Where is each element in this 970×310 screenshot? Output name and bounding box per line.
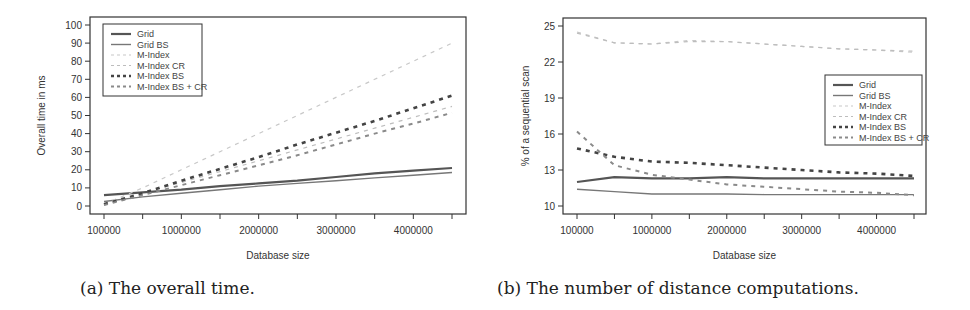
x-tick-label: 4000000 bbox=[394, 225, 433, 236]
series-line-grid bbox=[577, 177, 914, 182]
x-tick-label: 1000000 bbox=[162, 225, 201, 236]
y-tick-label: 10 bbox=[544, 201, 556, 212]
y-tick-label: 70 bbox=[71, 74, 83, 85]
x-tick-label: 3000000 bbox=[317, 225, 356, 236]
x-tick-label: 4000000 bbox=[857, 225, 896, 236]
series-line-m-index bbox=[577, 32, 914, 52]
y-tick-label: 0 bbox=[76, 201, 82, 212]
y-tick-label: 50 bbox=[71, 110, 83, 121]
legend-label: M-Index BS bbox=[137, 71, 184, 81]
caption-b: (b) The number of distance computations. bbox=[497, 278, 859, 298]
x-tick-label: 1000000 bbox=[632, 225, 671, 236]
x-tick-label: 2000000 bbox=[707, 225, 746, 236]
figure-a: 0102030405060708090100100000100000020000… bbox=[0, 0, 485, 310]
series-line-grid-bs bbox=[104, 173, 452, 202]
series-line-m-index-bs bbox=[577, 148, 914, 176]
x-tick-label: 3000000 bbox=[782, 225, 821, 236]
legend-label: M-Index BS + CR bbox=[859, 133, 930, 143]
y-tick-label: 80 bbox=[71, 56, 83, 67]
x-tick-label: 100000 bbox=[560, 225, 594, 236]
y-axis-title: Overall time in ms bbox=[36, 75, 47, 155]
y-tick-label: 30 bbox=[71, 146, 83, 157]
y-tick-label: 100 bbox=[65, 20, 82, 31]
legend-label: M-Index bbox=[137, 50, 170, 60]
y-tick-label: 10 bbox=[71, 182, 83, 193]
y-tick-label: 60 bbox=[71, 92, 83, 103]
y-tick-label: 25 bbox=[544, 21, 556, 32]
legend-label: Grid bbox=[137, 29, 154, 39]
y-tick-label: 22 bbox=[544, 57, 556, 68]
figure-b: 1013161922251000001000000200000030000004… bbox=[485, 0, 970, 310]
legend-label: Grid BS bbox=[137, 40, 169, 50]
x-tick-label: 100000 bbox=[87, 225, 121, 236]
y-tick-label: 40 bbox=[71, 128, 83, 139]
x-axis-title: Database size bbox=[713, 250, 777, 261]
y-axis-title: % of a sequential scan bbox=[520, 66, 531, 167]
y-tick-label: 16 bbox=[544, 129, 556, 140]
y-tick-label: 20 bbox=[71, 164, 83, 175]
x-axis-title: Database size bbox=[246, 250, 310, 261]
legend-label: M-Index CR bbox=[137, 61, 186, 71]
caption-a: (a) The overall time. bbox=[80, 278, 255, 298]
x-tick-label: 2000000 bbox=[239, 225, 278, 236]
y-tick-label: 19 bbox=[544, 93, 556, 104]
series-line-m-index-bs-cr bbox=[104, 113, 452, 205]
legend-label: Grid bbox=[859, 80, 876, 90]
legend-label: M-Index BS bbox=[859, 122, 906, 132]
chart-overall-time: 0102030405060708090100100000100000020000… bbox=[0, 0, 485, 270]
legend-label: M-Index BS + CR bbox=[137, 82, 208, 92]
chart-distance-computations: 1013161922251000001000000200000030000004… bbox=[485, 0, 970, 270]
y-tick-label: 90 bbox=[71, 38, 83, 49]
series-line-grid-bs bbox=[577, 189, 914, 194]
legend: GridGrid BSM-IndexM-Index CRM-Index BSM-… bbox=[103, 24, 208, 96]
series-line-m-index-cr bbox=[577, 33, 914, 51]
legend: GridGrid BSM-IndexM-Index CRM-Index BSM-… bbox=[825, 75, 930, 145]
y-tick-label: 13 bbox=[544, 165, 556, 176]
legend-label: M-Index CR bbox=[859, 112, 908, 122]
series-line-m-index-bs bbox=[104, 96, 452, 205]
legend-label: Grid BS bbox=[859, 91, 891, 101]
legend-label: M-Index bbox=[859, 101, 892, 111]
